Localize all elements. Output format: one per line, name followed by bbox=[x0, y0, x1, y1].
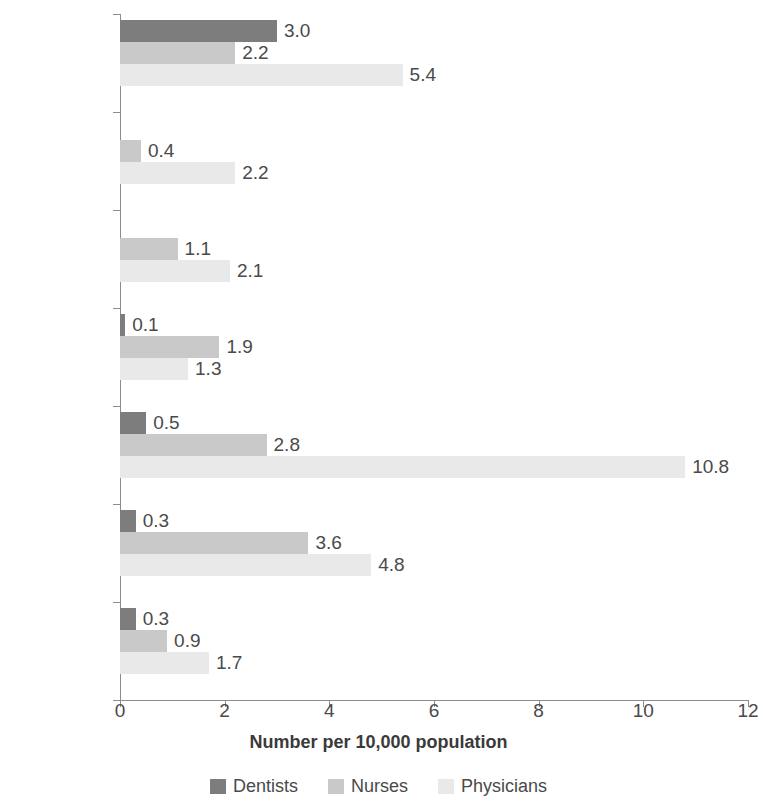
bar-row: 0.1 bbox=[120, 314, 748, 336]
bar-value-label: 1.7 bbox=[209, 652, 242, 674]
bar-physicians bbox=[120, 456, 685, 478]
x-axis-tick-label: 10 bbox=[613, 700, 673, 722]
bar-row: 4.8 bbox=[120, 554, 748, 576]
bar-physicians bbox=[120, 554, 371, 576]
bar-dentists bbox=[120, 412, 146, 434]
bar-physicians bbox=[120, 64, 403, 86]
legend-item: Physicians bbox=[438, 776, 547, 797]
bar-dentists bbox=[120, 608, 136, 630]
bar-nurses bbox=[120, 238, 178, 260]
bar-row: 3.6 bbox=[120, 532, 748, 554]
bar-nurses bbox=[120, 630, 167, 652]
bar-group: National3.02.25.4 bbox=[120, 14, 748, 112]
bar-row: 10.8 bbox=[120, 456, 748, 478]
bar-dentists bbox=[120, 20, 277, 42]
bar-value-label: 0.4 bbox=[141, 140, 174, 162]
plot-area: National3.02.25.4Sylhet0.42.2Rajshahi1.1… bbox=[120, 14, 748, 700]
bar-physicians bbox=[120, 652, 209, 674]
y-axis-tick bbox=[113, 308, 120, 309]
bar-row: 0.4 bbox=[120, 140, 748, 162]
bar-nurses bbox=[120, 532, 308, 554]
legend-label: Nurses bbox=[351, 776, 408, 797]
x-axis-tick-label: 12 bbox=[718, 700, 763, 722]
chart-legend: DentistsNursesPhysicians bbox=[0, 776, 757, 797]
legend-item: Nurses bbox=[328, 776, 408, 797]
bar-physicians bbox=[120, 162, 235, 184]
bar-value-label: 2.8 bbox=[267, 434, 300, 456]
bar-row: 0.5 bbox=[120, 412, 748, 434]
bar-value-label: 0.1 bbox=[125, 314, 158, 336]
bar-value-label: 0.5 bbox=[146, 412, 179, 434]
bar-row: 0.3 bbox=[120, 608, 748, 630]
bar-value-label: 4.8 bbox=[371, 554, 404, 576]
bar-value-label: 2.2 bbox=[235, 162, 268, 184]
bar-row: 1.3 bbox=[120, 358, 748, 380]
bar-row: 1.1 bbox=[120, 238, 748, 260]
bar-value-label: 2.2 bbox=[235, 42, 268, 64]
x-axis-tick-label: 0 bbox=[90, 700, 150, 722]
x-axis-tick-label: 4 bbox=[299, 700, 359, 722]
legend-swatch-icon bbox=[438, 779, 454, 794]
y-axis-tick bbox=[113, 14, 120, 15]
bar-value-label: 1.9 bbox=[219, 336, 252, 358]
bar-group: Barisal0.30.91.7 bbox=[120, 602, 748, 700]
bar-value-label: 0.3 bbox=[136, 510, 169, 532]
legend-swatch-icon bbox=[328, 779, 344, 794]
bar-row: 0.9 bbox=[120, 630, 748, 652]
bar-row bbox=[120, 118, 748, 140]
bar-value-label: 10.8 bbox=[685, 456, 729, 478]
bar-row: 2.1 bbox=[120, 260, 748, 282]
y-axis-tick bbox=[113, 602, 120, 603]
legend-label: Physicians bbox=[461, 776, 547, 797]
bar-dentists bbox=[120, 510, 136, 532]
bar-value-label: 0.3 bbox=[136, 608, 169, 630]
bar-value-label: 3.6 bbox=[308, 532, 341, 554]
bar-physicians bbox=[120, 260, 230, 282]
y-axis-tick bbox=[113, 112, 120, 113]
bar-group: Dhaka0.52.810.8 bbox=[120, 406, 748, 504]
bar-row: 3.0 bbox=[120, 20, 748, 42]
bar-group: Khulna0.11.91.3 bbox=[120, 308, 748, 406]
bar-row: 1.9 bbox=[120, 336, 748, 358]
legend-item: Dentists bbox=[210, 776, 298, 797]
bar-row: 0.3 bbox=[120, 510, 748, 532]
bar-row: 2.8 bbox=[120, 434, 748, 456]
bar-nurses bbox=[120, 140, 141, 162]
bar-physicians bbox=[120, 358, 188, 380]
bar-group: Rajshahi1.12.1 bbox=[120, 210, 748, 308]
bar-value-label: 0.9 bbox=[167, 630, 200, 652]
y-axis-tick bbox=[113, 210, 120, 211]
bar-row: 2.2 bbox=[120, 42, 748, 64]
bar-value-label: 2.1 bbox=[230, 260, 263, 282]
bar-row: 5.4 bbox=[120, 64, 748, 86]
x-axis-tick-label: 6 bbox=[404, 700, 464, 722]
bar-nurses bbox=[120, 336, 219, 358]
bar-group: Sylhet0.42.2 bbox=[120, 112, 748, 210]
bar-value-label: 1.1 bbox=[178, 238, 211, 260]
x-axis-title: Number per 10,000 population bbox=[0, 732, 757, 753]
bar-row: 2.2 bbox=[120, 162, 748, 184]
bar-nurses bbox=[120, 434, 267, 456]
legend-swatch-icon bbox=[210, 779, 226, 794]
bar-value-label: 3.0 bbox=[277, 20, 310, 42]
y-axis-tick bbox=[113, 504, 120, 505]
bar-row bbox=[120, 216, 748, 238]
x-axis-tick-label: 8 bbox=[509, 700, 569, 722]
bar-row: 1.7 bbox=[120, 652, 748, 674]
legend-label: Dentists bbox=[233, 776, 298, 797]
x-axis-tick-label: 2 bbox=[195, 700, 255, 722]
bar-nurses bbox=[120, 42, 235, 64]
bar-value-label: 1.3 bbox=[188, 358, 221, 380]
y-axis-tick bbox=[113, 406, 120, 407]
bar-group: Chittagong0.33.64.8 bbox=[120, 504, 748, 602]
bar-value-label: 5.4 bbox=[403, 64, 436, 86]
